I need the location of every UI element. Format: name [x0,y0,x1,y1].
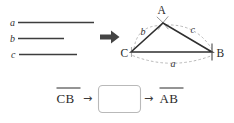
flow-arrow-1-icon: → [83,92,92,105]
vertex-label-a: A [158,4,167,16]
vertex-label-b: B [217,47,225,59]
answer-box-group[interactable] [99,86,141,113]
given-segment-b: b [10,33,64,44]
answer-box[interactable] [99,86,141,113]
flow-start-term: CB [57,88,81,106]
given-segment-a: a [10,17,94,28]
segment-c-label: c [11,49,16,60]
vertex-label-c: C [121,47,129,59]
figure-canvas: a b c [0,0,234,123]
triangle-construction-group: A B C b c a [121,4,225,70]
flow-arrow-2-icon: → [144,92,153,105]
triangle-side-label-b: b [141,26,146,37]
flow-start-label: CB [57,91,75,106]
triangle-side-label-c: c [191,24,196,35]
triangle-side-label-a: a [171,58,176,69]
geometry-figure: a b c [0,0,234,123]
segment-a-label: a [10,17,15,28]
given-segments-group: a b c [10,17,94,60]
flow-end-label: AB [160,91,179,106]
given-segment-c: c [11,49,77,60]
segment-b-label: b [10,33,15,44]
flow-end-term: AB [160,88,184,106]
flow-row-group: CB → → AB [57,86,184,113]
implies-arrow-icon [100,31,120,44]
